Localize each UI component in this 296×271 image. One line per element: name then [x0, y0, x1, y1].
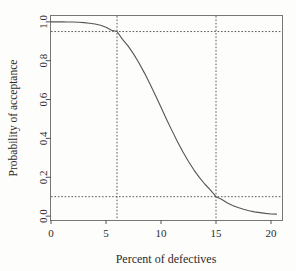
tick-marks-group — [47, 22, 271, 224]
x-tick-label: 5 — [103, 227, 109, 239]
y-tick-labels-group: 0.00.20.40.60.81.0 — [37, 14, 49, 223]
x-tick-label: 10 — [156, 227, 168, 239]
oc-curve-line — [51, 22, 277, 214]
x-tick-label: 15 — [211, 227, 223, 239]
y-tick-label: 0.4 — [37, 131, 49, 145]
x-tick-labels-group: 05101520 — [48, 227, 277, 239]
x-tick-label: 0 — [48, 227, 54, 239]
y-tick-label: 0.0 — [37, 209, 49, 223]
y-tick-label: 1.0 — [37, 14, 49, 28]
oc-curve-figure: 05101520 0.00.20.40.60.81.0 Percent of d… — [0, 0, 296, 271]
chart-canvas: 05101520 0.00.20.40.60.81.0 Percent of d… — [0, 0, 296, 271]
y-tick-label: 0.8 — [37, 53, 49, 67]
x-axis-title: Percent of defectives — [116, 252, 217, 266]
x-tick-label: 20 — [266, 227, 278, 239]
y-tick-label: 0.2 — [37, 170, 49, 184]
y-axis-title: Probability of acceptance — [7, 60, 20, 177]
y-tick-label: 0.6 — [37, 92, 49, 106]
